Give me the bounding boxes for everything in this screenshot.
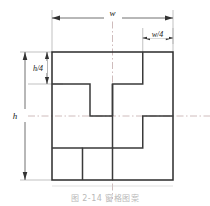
centerlines-group (28, 8, 210, 199)
dimension-h-arrow-bottom (23, 172, 28, 180)
dimension-w: w (52, 8, 173, 20)
dimension-w-arrow-right (165, 16, 173, 21)
pinwheel-arm-upper-left (52, 84, 113, 116)
pinwheel-arm-right-middle (113, 116, 174, 148)
dimension-w-label: w (109, 8, 115, 18)
dimension-w-quarter: w/4 (143, 28, 173, 44)
window-lattice-diagram: w w/4 h h/4 (0, 0, 210, 206)
dimension-h-arrow-top (23, 52, 28, 60)
dimension-h-quarter: h/4 (30, 52, 49, 84)
pinwheel-arm-upper-right (113, 52, 143, 116)
pinwheel-arm-lower-left (83, 148, 113, 180)
dimension-h-label: h (13, 111, 18, 121)
dimension-h: h (13, 52, 28, 180)
figure-container: w w/4 h h/4 (0, 0, 210, 206)
figure-caption: 图 2-14 窗格图案 (0, 192, 210, 203)
dimension-wquarter-label: w/4 (152, 30, 164, 39)
dimension-w-arrow-left (52, 16, 60, 21)
dimension-hquarter-label: h/4 (33, 64, 43, 73)
dimension-hquarter-arrow-bottom (45, 77, 49, 84)
dimension-hquarter-arrow-top (45, 52, 49, 59)
